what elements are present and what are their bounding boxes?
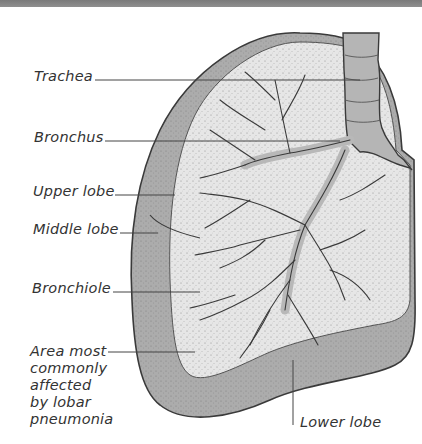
label-area-affected: Area most commonly affected by lobar pne…	[30, 343, 112, 428]
label-trachea: Trachea	[34, 68, 93, 85]
label-middle-lobe: Middle lobe	[33, 221, 119, 238]
label-bronchiole: Bronchiole	[32, 280, 111, 297]
label-lower-lobe: Lower lobe	[300, 414, 381, 431]
label-bronchus: Bronchus	[34, 129, 103, 146]
label-upper-lobe: Upper lobe	[33, 183, 115, 200]
